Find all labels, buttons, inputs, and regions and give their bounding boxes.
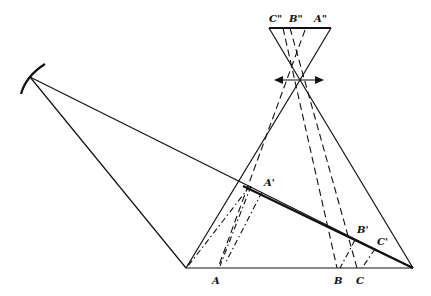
label-c: C: [356, 275, 364, 286]
optics-diagram: C" B" A" A' B' C' A B C: [0, 0, 431, 296]
main-cone-left: [186, 80, 300, 268]
lens-arrow-left-icon: [274, 76, 283, 84]
dashdot-c: [362, 249, 375, 268]
ray-b-dbl: [290, 28, 357, 268]
label-c-dbl: C": [269, 13, 282, 24]
label-a-prime: A': [263, 177, 275, 188]
dashdot-a-1: [188, 186, 250, 266]
label-a: A: [211, 275, 220, 286]
image-cone-right: [300, 28, 331, 80]
dashdot-a-3: [226, 192, 262, 262]
label-b-dbl: B": [288, 13, 303, 24]
label-b-prime: B': [356, 224, 369, 235]
lens-arrow-right-icon: [315, 76, 324, 84]
label-a-dbl: A": [313, 13, 327, 24]
dashdot-a-2: [220, 186, 251, 266]
label-b: B: [333, 275, 342, 286]
image-cone-left: [269, 28, 300, 80]
mirror-ray-lower: [30, 77, 186, 268]
ray-a: [218, 30, 305, 268]
label-c-prime: C': [377, 236, 388, 247]
